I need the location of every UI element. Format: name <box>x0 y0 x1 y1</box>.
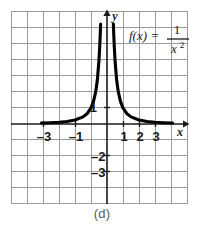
equation-denominator-exponent: 2 <box>180 40 185 50</box>
y-tick-label--3: –3 <box>91 165 105 180</box>
x-tick-label--3: –3 <box>37 129 51 144</box>
equation-function-label: f(x) <box>129 28 147 43</box>
x-axis-label: x <box>176 125 183 139</box>
y-tick-label--2: –2 <box>91 149 105 164</box>
equation-equals-sign: = <box>151 28 158 43</box>
equation-numerator: 1 <box>174 22 181 37</box>
x-tick-label-2: 2 <box>136 129 143 144</box>
x-tick-label-3: 3 <box>152 129 159 144</box>
equation-denominator-base: x <box>170 41 177 56</box>
y-axis-label: y <box>110 9 118 23</box>
x-tick-label--1: –1 <box>69 129 83 144</box>
figure-caption: (d) <box>0 206 204 221</box>
y-tick-label-1: 1 <box>90 100 97 115</box>
x-tick-label-1: 1 <box>120 129 127 144</box>
function-graph-figure: –3 –1 1 2 3 1 –2 –3 x y f(x) = 1 x 2 <box>0 0 204 228</box>
